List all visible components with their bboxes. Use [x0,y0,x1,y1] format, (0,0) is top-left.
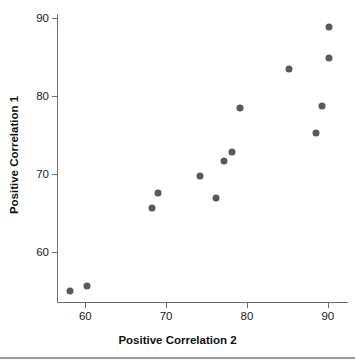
y-tick-label: 80 [36,90,49,102]
data-point [213,194,220,201]
x-tick-mark [85,303,86,308]
x-tick-mark [247,303,248,308]
x-axis-line [57,302,348,303]
x-tick-mark [328,303,329,308]
y-axis-title: Positive Correlation 1 [6,0,22,310]
x-tick-label: 90 [321,310,334,322]
data-point [312,129,319,136]
data-point [83,282,90,289]
y-tick-mark [52,174,57,175]
y-tick-label: 60 [36,246,49,258]
x-tick-mark [166,303,167,308]
y-tick-mark [52,96,57,97]
scatter-plot-figure: Positive Correlation 1 60708090 60708090… [0,0,355,363]
y-axis-line [57,14,58,303]
y-axis-title-text: Positive Correlation 1 [8,96,20,214]
x-tick-label: 60 [79,310,92,322]
data-point [221,157,228,164]
data-point [285,66,292,73]
data-point [325,54,332,61]
y-tick-label: 70 [36,168,49,180]
x-tick-label: 80 [241,310,254,322]
data-point [237,104,244,111]
y-tick-mark [52,252,57,253]
y-tick-label: 90 [36,12,49,24]
x-axis-title: Positive Correlation 2 [0,334,355,346]
bottom-divider [0,357,355,359]
data-point [149,204,156,211]
plot-area: 60708090 60708090 [57,14,348,303]
data-point [66,287,73,294]
data-point [325,24,332,31]
x-tick-label: 70 [160,310,173,322]
data-point [155,189,162,196]
y-tick-mark [52,18,57,19]
data-point [229,149,236,156]
data-point [197,172,204,179]
data-point [319,103,326,110]
